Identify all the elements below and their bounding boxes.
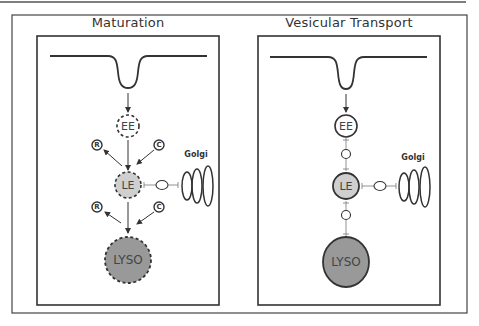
label-cargo-2: C xyxy=(156,203,161,211)
panel-title-vesicular-transport: Vesicular Transport xyxy=(258,15,440,30)
transport-vesicle xyxy=(342,150,351,159)
plasma-membrane xyxy=(50,56,207,88)
diagram-svg xyxy=(0,0,479,326)
label-early-endosome: EE xyxy=(339,121,353,132)
label-recycling-2: R xyxy=(94,203,99,211)
transport-vesicle xyxy=(342,211,351,220)
panel-title-maturation: Maturation xyxy=(37,15,219,30)
outer-frame xyxy=(12,15,467,313)
golgi-stack-left xyxy=(182,166,213,206)
transport-vesicle xyxy=(374,182,386,191)
label-golgi-left: Golgi xyxy=(184,150,207,159)
figure-canvas: Maturation Vesicular Transport EE LE LYS… xyxy=(0,0,479,326)
transport-vesicle xyxy=(156,181,168,190)
label-golgi-right: Golgi xyxy=(401,153,424,162)
label-early-endosome: EE xyxy=(121,121,135,132)
label-lysosome: LYSO xyxy=(113,254,142,266)
label-lysosome: LYSO xyxy=(331,256,360,268)
label-cargo-1: C xyxy=(156,141,161,149)
label-late-endosome: LE xyxy=(339,181,352,192)
label-recycling-1: R xyxy=(94,141,99,149)
plasma-membrane xyxy=(270,57,427,89)
golgi-stack-right xyxy=(399,167,430,207)
label-late-endosome: LE xyxy=(121,180,134,191)
